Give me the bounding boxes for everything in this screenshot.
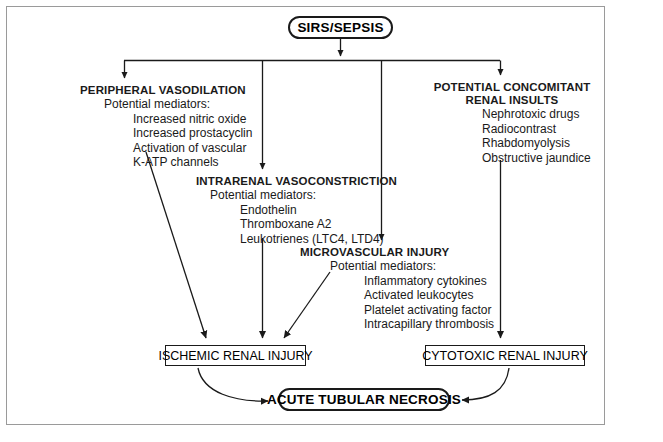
node-cytotoxic-renal-injury: CYTOTOXIC RENAL INJURY bbox=[425, 345, 585, 366]
group-intrarenal-vasoconstriction-title: INTRARENAL VASOCONSTRICTION bbox=[196, 175, 397, 188]
list-item: K-ATP channels bbox=[133, 155, 252, 170]
group-peripheral-vasodilation-items: Increased nitric oxide Increased prostac… bbox=[133, 112, 252, 170]
node-acute-tubular-necrosis: ACUTE TUBULAR NECROSIS bbox=[278, 388, 450, 411]
group-peripheral-vasodilation: PERIPHERAL VASODILATION Potential mediat… bbox=[80, 84, 252, 170]
group-intrarenal-vasoconstriction-items: Endothelin Thromboxane A2 Leukotrienes (… bbox=[240, 203, 397, 247]
group-potential-concomitant-renal-insults-title-line2: RENAL INSULTS bbox=[428, 94, 596, 107]
group-potential-concomitant-renal-insults-items: Nephrotoxic drugs Radiocontrast Rhabdomy… bbox=[482, 107, 596, 165]
group-intrarenal-vasoconstriction: INTRARENAL VASOCONSTRICTION Potential me… bbox=[196, 175, 397, 246]
group-potential-concomitant-renal-insults: POTENTIAL CONCOMITANT RENAL INSULTS Neph… bbox=[428, 81, 596, 165]
group-peripheral-vasodilation-title: PERIPHERAL VASODILATION bbox=[80, 84, 252, 97]
list-item: Nephrotoxic drugs bbox=[482, 107, 596, 122]
node-sirs-sepsis-label: SIRS/SEPSIS bbox=[297, 20, 383, 35]
node-ischemic-renal-injury: ISCHEMIC RENAL INJURY bbox=[165, 345, 306, 366]
list-item: Obstructive jaundice bbox=[482, 151, 596, 166]
group-peripheral-vasodilation-subtitle: Potential mediators: bbox=[104, 97, 252, 112]
node-sirs-sepsis: SIRS/SEPSIS bbox=[288, 16, 393, 39]
list-item: Increased prostacyclin bbox=[133, 126, 252, 141]
list-item: Activated leukocytes bbox=[364, 288, 494, 303]
list-item: Inflammatory cytokines bbox=[364, 274, 494, 289]
list-item: Increased nitric oxide bbox=[133, 112, 252, 127]
list-item: Endothelin bbox=[240, 203, 397, 218]
group-intrarenal-vasoconstriction-subtitle: Potential mediators: bbox=[210, 188, 397, 203]
list-item: Platelet activating factor bbox=[364, 303, 494, 318]
list-item: Intracapillary thrombosis bbox=[364, 317, 494, 332]
list-item: Radiocontrast bbox=[482, 122, 596, 137]
node-acute-tubular-necrosis-label: ACUTE TUBULAR NECROSIS bbox=[267, 392, 461, 407]
list-item: Rhabdomyolysis bbox=[482, 136, 596, 151]
group-microvascular-injury-items: Inflammatory cytokines Activated leukocy… bbox=[364, 274, 494, 332]
list-item: Leukotrienes (LTC4, LTD4) bbox=[240, 232, 397, 247]
list-item: Activation of vascular bbox=[133, 141, 252, 156]
group-potential-concomitant-renal-insults-title-line1: POTENTIAL CONCOMITANT bbox=[428, 81, 596, 94]
list-item: Thromboxane A2 bbox=[240, 217, 397, 232]
group-microvascular-injury: MICROVASCULAR INJURY Potential mediators… bbox=[300, 246, 494, 332]
diagram-canvas: SIRS/SEPSIS ACUTE TUBULAR NECROSIS ISCHE… bbox=[0, 0, 663, 442]
node-cytotoxic-renal-injury-label: CYTOTOXIC RENAL INJURY bbox=[422, 349, 588, 363]
group-microvascular-injury-subtitle: Potential mediators: bbox=[330, 259, 494, 274]
node-ischemic-renal-injury-label: ISCHEMIC RENAL INJURY bbox=[158, 349, 312, 363]
group-microvascular-injury-title: MICROVASCULAR INJURY bbox=[300, 246, 494, 259]
